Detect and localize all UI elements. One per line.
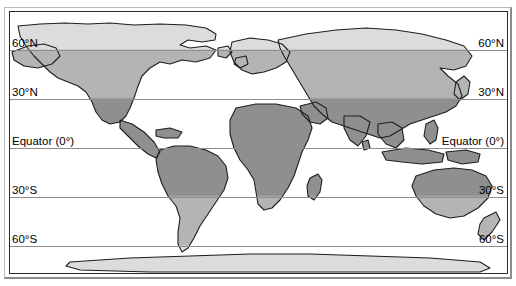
world-map-panel (9, 11, 508, 274)
gridline-60s (10, 246, 507, 247)
lat-label-right-60n: 60°N (478, 37, 504, 49)
gridline-equator (10, 148, 507, 149)
lat-label-left-60s: 60°S (12, 233, 37, 245)
lat-label-left-equator: Equator (0°) (12, 135, 74, 147)
lat-label-right-30n: 30°N (478, 86, 504, 98)
figure-root: 60°N 30°N Equator (0°) 30°S 60°S 60°N 30… (0, 0, 516, 286)
gridline-30n (10, 99, 507, 100)
lat-label-right-60s: 60°S (479, 233, 504, 245)
gridline-30s (10, 197, 507, 198)
map-canvas (10, 12, 507, 273)
lat-label-left-60n: 60°N (12, 37, 38, 49)
lat-label-left-30n: 30°N (12, 86, 38, 98)
world-map-svg (10, 12, 507, 273)
lat-label-left-30s: 30°S (12, 184, 37, 196)
lat-label-right-equator: Equator (0°) (442, 135, 504, 147)
lat-label-right-30s: 30°S (479, 184, 504, 196)
gridline-60n (10, 50, 507, 51)
